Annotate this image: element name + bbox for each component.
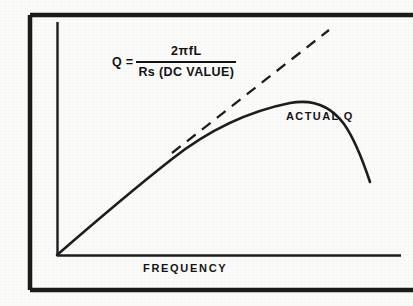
formula-numerator: 2πfL (165, 44, 208, 61)
formula-fraction: 2πfL Rs (DC VALUE) (136, 44, 236, 81)
formula-denominator: Rs (DC VALUE) (136, 63, 236, 81)
ideal-q-formula: Q = 2πfL Rs (DC VALUE) (112, 44, 236, 81)
actual-q-label: ACTUAL Q (286, 110, 354, 122)
figure-page: Q = 2πfL Rs (DC VALUE) ACTUAL Q FREQUENC… (0, 0, 413, 306)
actual-q-curve (57, 102, 370, 255)
x-axis-label: FREQUENCY (143, 262, 227, 274)
formula-lhs: Q = (112, 56, 133, 69)
